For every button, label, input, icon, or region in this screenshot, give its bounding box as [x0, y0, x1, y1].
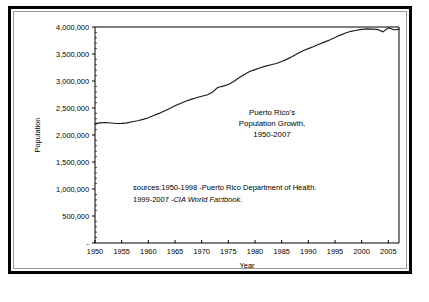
plot-frame — [95, 27, 399, 243]
x-axis-label: Year — [240, 261, 255, 270]
x-tick-label: 1975 — [220, 247, 236, 256]
chart-title-line: Puerto Rico's — [249, 108, 295, 117]
chart-title-line: 1950-2007 — [253, 130, 290, 139]
y-axis-label: Population — [33, 118, 42, 153]
figure-container: -500,0001,000,0001,500,0002,000,0002,500… — [0, 0, 429, 302]
y-tick-label: 1,000,000 — [56, 185, 89, 194]
sources-range: 1999-2007 - — [133, 195, 174, 204]
population-line — [95, 28, 399, 124]
y-tick-label: 500,000 — [62, 212, 89, 221]
x-tick-label: 1970 — [193, 247, 209, 256]
y-tick-label: 4,000,000 — [56, 23, 89, 32]
x-tick-label: 1955 — [113, 247, 129, 256]
y-tick-label: 2,500,000 — [56, 104, 89, 113]
x-tick-label: 2000 — [353, 247, 369, 256]
y-tick-label: 3,000,000 — [56, 77, 89, 86]
sources-line-1: sources:1950-1998 -Puerto Rico Departmen… — [133, 183, 316, 192]
x-tick-label: 2005 — [380, 247, 396, 256]
x-tick-label: 1995 — [327, 247, 343, 256]
x-tick-label: 1990 — [300, 247, 316, 256]
x-tick-label: 1950 — [87, 247, 103, 256]
x-tick-label: 1965 — [167, 247, 183, 256]
sources-line-2: 1999-2007 -CIA World Factbook. — [133, 195, 242, 204]
x-tick-label: 1985 — [273, 247, 289, 256]
y-tick-label: 3,500,000 — [56, 50, 89, 59]
sources-period: . — [240, 195, 242, 204]
chart-plot-area: -500,0001,000,0001,500,0002,000,0002,500… — [0, 0, 429, 302]
line-chart: -500,0001,000,0001,500,0002,000,0002,500… — [0, 0, 429, 302]
sources-publication: CIA World Factbook — [173, 195, 241, 204]
chart-title-line: Population Growth, — [239, 119, 305, 128]
x-tick-label: 1960 — [140, 247, 156, 256]
y-tick-label: 1,500,000 — [56, 158, 89, 167]
y-tick-label: 2,000,000 — [56, 131, 89, 140]
x-tick-label: 1980 — [247, 247, 263, 256]
